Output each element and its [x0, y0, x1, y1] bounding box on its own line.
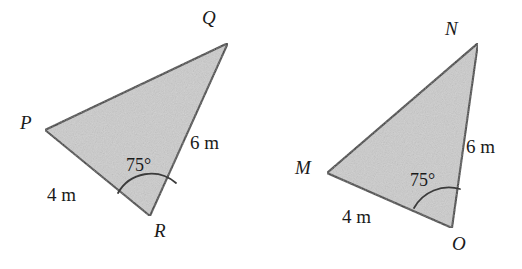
vertex-label-m: M [295, 158, 311, 177]
figure-canvas [0, 0, 522, 269]
vertex-label-r: R [154, 221, 166, 240]
vertex-label-p: P [20, 113, 32, 132]
side-label-mo: 4 m [342, 207, 371, 226]
vertex-label-n: N [445, 19, 458, 38]
side-label-no: 6 m [466, 137, 495, 156]
geometry-figure: P Q R 4 m 6 m 75° M N O 4 m 6 m 75° [0, 0, 522, 269]
vertex-label-o: O [452, 234, 466, 253]
angle-label-o: 75° [410, 171, 435, 189]
triangle-mno-shape [327, 43, 478, 228]
vertex-label-q: Q [202, 8, 216, 27]
angle-label-r: 75° [126, 156, 151, 174]
side-label-pr: 4 m [47, 185, 76, 204]
side-label-qr: 6 m [190, 133, 219, 152]
